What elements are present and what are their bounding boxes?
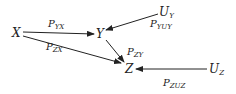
- edge-label-pyx: PYX: [48, 19, 64, 31]
- node-x: X: [12, 27, 21, 39]
- node-uy: UY: [159, 6, 174, 20]
- edge-label-pzy: PZY: [127, 47, 143, 59]
- edge-x-y: [23, 32, 94, 34]
- edge-label-pzx: PZX: [46, 42, 63, 54]
- edge-y-z: [106, 40, 124, 62]
- edge-label-pyuy: PYUY: [150, 19, 172, 31]
- diagram-edges: [0, 0, 236, 94]
- edge-label-pzuz: PZUZ: [163, 78, 185, 90]
- node-y: Y: [96, 28, 104, 40]
- node-uz: UZ: [209, 63, 224, 77]
- node-z: Z: [125, 63, 133, 75]
